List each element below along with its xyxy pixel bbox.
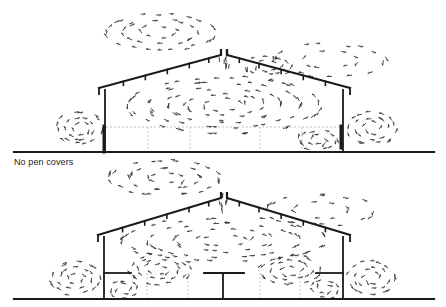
airflow-arrow bbox=[65, 139, 69, 141]
airflow-arrow-head bbox=[207, 245, 209, 246]
airflow-arrow-head bbox=[287, 84, 289, 85]
airflow-arrow-head bbox=[190, 119, 192, 120]
airflow-arrow-head bbox=[122, 237, 123, 239]
airflow-arrow-head bbox=[111, 25, 112, 27]
airflow-arrow-head bbox=[193, 169, 195, 170]
airflow-arrow bbox=[299, 72, 304, 73]
airflow-arrow-head bbox=[265, 72, 267, 73]
ridge-vent-arrow bbox=[222, 209, 223, 213]
airflow-arrow-head bbox=[270, 270, 271, 272]
airflow-arrow-head bbox=[282, 83, 284, 84]
airflow-panel-top bbox=[0, 0, 446, 307]
airflow-arrow-head bbox=[348, 127, 349, 129]
airflow-arrow-head bbox=[303, 268, 304, 270]
airflow-arrows bbox=[57, 14, 398, 150]
airflow-arrow-head bbox=[277, 58, 279, 59]
airflow-arrow bbox=[196, 20, 201, 21]
ridge-vent-arrow bbox=[229, 64, 230, 68]
panel-caption: No pen covers bbox=[14, 157, 73, 167]
airflow-arrow-head bbox=[88, 133, 89, 135]
airflow-diagram-figure: No pen covers bbox=[0, 0, 446, 307]
airflow-arrow-head bbox=[115, 170, 116, 172]
airflow-arrow-head bbox=[256, 90, 258, 91]
airflow-arrow-head bbox=[244, 96, 246, 97]
airflow-arrow-head bbox=[305, 148, 307, 149]
airflow-arrow-head bbox=[121, 242, 122, 244]
airflow-arrow-head bbox=[165, 268, 167, 269]
airflow-arrow-head bbox=[319, 274, 320, 276]
airflow-arrow-head bbox=[93, 288, 94, 290]
building-section-bottom bbox=[14, 160, 434, 299]
roof-right-slope bbox=[227, 50, 350, 88]
airflow-arrow bbox=[127, 38, 131, 40]
airflow-arrow-head bbox=[380, 275, 381, 277]
airflow-arrow-head bbox=[173, 239, 174, 241]
airflow-arrow bbox=[358, 46, 363, 47]
roof-right-slope bbox=[227, 193, 350, 235]
ridge-vent-arrow bbox=[219, 201, 220, 205]
airflow-arrow bbox=[284, 284, 289, 285]
airflow-arrow-head bbox=[269, 234, 271, 235]
ridge-vent-arrow bbox=[221, 203, 222, 207]
airflow-arrow bbox=[174, 262, 178, 264]
airflow-arrow-head bbox=[171, 254, 173, 255]
airflow-arrow-head bbox=[291, 225, 293, 226]
airflow-arrow-head bbox=[290, 266, 292, 267]
airflow-arrow-head bbox=[262, 84, 264, 85]
airflow-arrow-head bbox=[297, 225, 299, 226]
airflow-arrow bbox=[160, 126, 165, 127]
airflow-arrow-head bbox=[182, 123, 184, 124]
airflow-arrow-head bbox=[91, 123, 93, 124]
airflow-arrow-head bbox=[149, 254, 151, 255]
roof-left-slope bbox=[98, 193, 221, 235]
airflow-arrow-head bbox=[137, 286, 138, 288]
airflow-arrow-head bbox=[91, 273, 93, 274]
airflow-arrow-head bbox=[282, 65, 283, 67]
airflow-arrow bbox=[182, 180, 184, 184]
airflow-arrow-head bbox=[184, 276, 185, 278]
airflow-arrow bbox=[323, 143, 326, 147]
airflow-arrow-head bbox=[163, 127, 165, 128]
airflow-arrow-head bbox=[359, 135, 361, 136]
building-structure bbox=[14, 50, 434, 152]
airflow-arrow-head bbox=[285, 60, 287, 61]
airflow-arrow bbox=[137, 41, 142, 42]
airflow-arrow bbox=[119, 186, 123, 188]
building-section-top bbox=[14, 14, 434, 152]
airflow-arrow-head bbox=[178, 268, 180, 269]
